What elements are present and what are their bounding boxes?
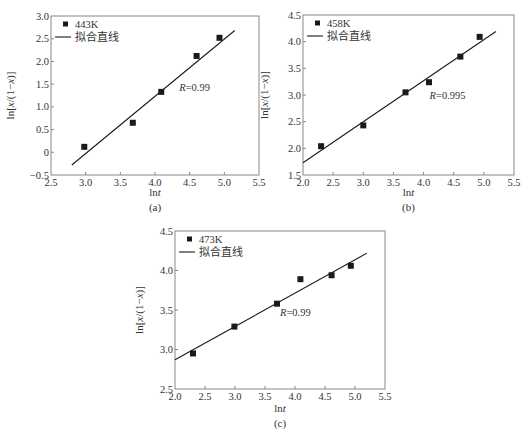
x-tick-label: 4.5 — [318, 391, 331, 402]
panel-caption: (c) — [274, 417, 287, 430]
x-axis-label: lnt — [274, 402, 287, 414]
y-tick-label: 2.0 — [288, 143, 301, 154]
data-point — [297, 276, 303, 282]
legend: 458K拟合直线 — [307, 18, 371, 43]
data-point — [190, 350, 196, 356]
chart-canvas: 2.53.03.54.04.55.05.5−0.500.51.01.52.02.… — [0, 0, 530, 440]
r-value-annotation: R=0.995 — [429, 90, 466, 101]
legend: 443K拟合直线 — [55, 19, 119, 44]
y-tick-label: 1.5 — [288, 170, 301, 181]
x-axis-label: lnt — [149, 186, 162, 198]
y-tick-label: 4.0 — [160, 265, 173, 276]
legend-marker-square — [315, 21, 320, 26]
y-tick-label: −0.5 — [30, 170, 49, 181]
x-tick-label: 4.5 — [447, 177, 460, 188]
data-point — [194, 53, 200, 59]
legend: 473K拟合直线 — [179, 234, 243, 259]
data-point — [348, 263, 354, 269]
fit-line — [303, 32, 496, 163]
x-tick-label: 5.0 — [477, 177, 490, 188]
y-axis-label: ln[x/(1−x)] — [133, 286, 146, 334]
y-tick-label: 4.0 — [288, 36, 301, 47]
y-tick-label: 4.5 — [160, 226, 173, 237]
y-tick-label: 1.5 — [36, 79, 49, 90]
y-tick-label: 0.5 — [36, 124, 49, 135]
x-tick-label: 3.0 — [228, 391, 241, 402]
y-tick-label: 2.5 — [160, 384, 173, 395]
x-tick-label: 3.5 — [114, 177, 127, 188]
data-point — [158, 89, 164, 95]
y-tick-label: 3.0 — [288, 90, 301, 101]
chart-panel-b: 2.02.53.03.54.04.55.05.51.52.02.53.03.54… — [258, 10, 521, 215]
chart-panel-a: 2.53.03.54.04.55.05.5−0.500.51.01.52.02.… — [4, 11, 266, 215]
data-point — [231, 324, 237, 330]
legend-label-series: 473K — [199, 234, 223, 245]
x-tick-label: 2.5 — [198, 391, 211, 402]
data-point — [274, 301, 280, 307]
data-point — [477, 34, 483, 40]
y-tick-label: 3.0 — [160, 344, 173, 355]
legend-marker-square — [187, 237, 192, 242]
panel-caption: (a) — [149, 201, 162, 214]
legend-marker-square — [63, 22, 68, 27]
y-tick-label: 2.5 — [288, 116, 301, 127]
y-tick-label: 3.0 — [36, 11, 49, 22]
panel-caption: (b) — [402, 201, 415, 214]
x-tick-label: 3.0 — [79, 177, 92, 188]
r-value-annotation: R=0.99 — [279, 307, 311, 318]
data-point — [329, 272, 335, 278]
x-tick-label: 5.0 — [218, 177, 231, 188]
data-point — [402, 89, 408, 95]
y-tick-label: 3.5 — [288, 63, 301, 74]
data-point — [426, 79, 432, 85]
x-tick-label: 3.5 — [258, 391, 271, 402]
y-tick-label: 0 — [44, 147, 49, 158]
legend-label-fit: 拟合直线 — [199, 245, 243, 258]
y-tick-label: 2.0 — [36, 56, 49, 67]
x-tick-label: 5.5 — [252, 177, 265, 188]
x-axis-label: lnt — [403, 186, 416, 198]
y-axis-label: ln[x/(1−x)] — [258, 71, 271, 119]
y-tick-label: 3.5 — [160, 305, 173, 316]
data-point — [318, 143, 324, 149]
data-point — [216, 35, 222, 41]
x-tick-label: 5.5 — [507, 177, 520, 188]
x-tick-label: 3.0 — [357, 177, 370, 188]
legend-label-fit: 拟合直线 — [75, 30, 119, 43]
x-tick-label: 4.0 — [417, 177, 430, 188]
x-tick-label: 5.0 — [348, 391, 361, 402]
data-point — [457, 54, 463, 60]
r-value-annotation: R=0.99 — [178, 82, 210, 93]
y-tick-label: 4.5 — [288, 10, 301, 21]
data-point — [81, 144, 87, 150]
x-tick-label: 4.0 — [288, 391, 301, 402]
x-tick-label: 3.5 — [387, 177, 400, 188]
y-tick-label: 1.0 — [36, 101, 49, 112]
legend-label-fit: 拟合直线 — [327, 29, 371, 42]
x-tick-label: 5.5 — [378, 391, 391, 402]
x-tick-label: 4.5 — [183, 177, 196, 188]
fit-line — [72, 31, 235, 165]
y-axis-label: ln[x/(1−x)] — [4, 72, 17, 120]
x-tick-label: 2.5 — [327, 177, 340, 188]
y-tick-label: 2.5 — [36, 33, 49, 44]
data-point — [130, 120, 136, 126]
data-point — [360, 122, 366, 128]
legend-label-series: 458K — [327, 18, 351, 29]
chart-panel-c: 2.02.53.03.54.04.55.05.52.53.03.54.04.5l… — [133, 226, 392, 431]
legend-label-series: 443K — [75, 19, 99, 30]
fit-line — [175, 253, 367, 360]
